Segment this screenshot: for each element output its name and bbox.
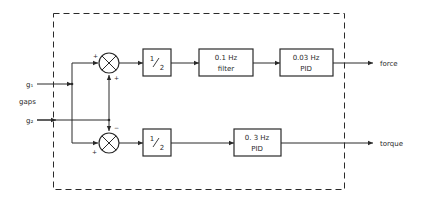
top-half-numerator: 1 [150,55,154,63]
system-boundary [54,14,345,190]
top-half-gain-block: 1 2 [143,49,171,76]
force-pid-line1: 0.03 Hz [293,54,320,62]
bottom-half-gain-block: 1 2 [143,129,171,156]
bottom-half-numerator: 1 [150,135,154,143]
top-half-denominator: 2 [160,64,164,72]
torque-pid-line2: PID [251,145,263,153]
block-diagram: g₁ gaps g₂ + + − + 1 2 0.1 Hz [0,0,422,204]
filter-block-line1: 0.1 Hz [215,54,238,62]
force-pid-block: 0.03 Hz PID [280,49,333,76]
bottom-summer-sign-top: − [114,124,119,131]
gaps-label: gaps [19,98,36,106]
input-g2-label: g₂ [26,117,33,125]
torque-output-label: torque [380,140,403,148]
force-pid-line2: PID [300,65,312,73]
filter-block: 0.1 Hz filter [199,49,253,76]
top-summer-sign-left: + [93,52,98,59]
bottom-half-denominator: 2 [160,144,164,152]
bottom-summing-junction [99,133,119,153]
bottom-summer-sign-left: + [92,148,97,155]
torque-pid-line1: 0. 3 Hz [245,134,270,142]
torque-pid-block: 0. 3 Hz PID [234,129,281,156]
top-summer-sign-bottom: + [114,74,119,81]
filter-block-line2: filter [218,65,234,73]
force-output-label: force [380,60,398,68]
input-g1-label: g₁ [26,81,33,89]
top-summing-junction [99,53,119,73]
